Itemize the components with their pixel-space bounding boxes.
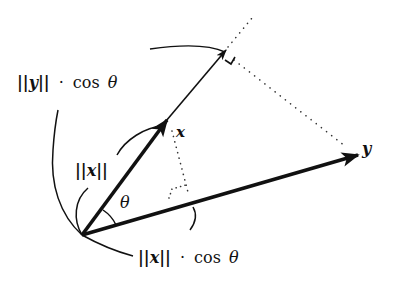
bracket-norm-x-upper: [117, 126, 163, 155]
vector-x-label: x: [175, 123, 186, 141]
right-angle-marker-lower: [169, 185, 186, 198]
bracket-norm-y-cos-top: [150, 46, 225, 52]
norm-x-cos-theta-label: ||x|| · cos θ: [138, 248, 239, 267]
projection-y-on-x-arrow: [166, 50, 226, 121]
x-direction-dotted-extension: [228, 18, 252, 47]
vector-y-label: y: [361, 139, 373, 158]
bracket-norm-x-cos-left: [82, 235, 133, 256]
norm-y-cos-theta-label: ||y|| · cos θ: [17, 73, 118, 92]
vector-projection-diagram: x y θ ||x|| ||y|| · cos θ ||x|| · cos θ: [0, 0, 397, 289]
perpendicular-y-to-x-dotted: [234, 60, 345, 146]
right-angle-marker-upper: [225, 57, 235, 64]
theta-label: θ: [120, 193, 130, 212]
norm-x-label: ||x||: [75, 161, 108, 180]
theta-angle-arc: [103, 210, 116, 225]
bracket-norm-x-cos-right: [190, 207, 195, 230]
